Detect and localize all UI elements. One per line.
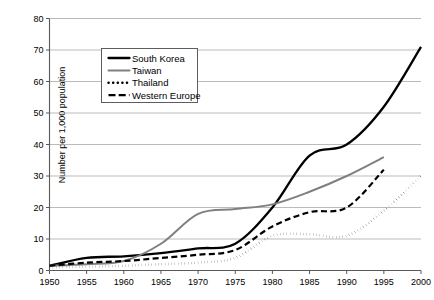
x-tick-label: 1960 — [114, 277, 134, 287]
x-tick-label: 2000 — [411, 277, 431, 287]
legend-label-south-korea: South Korea — [132, 53, 186, 64]
legend: South KoreaTaiwanThailandWestern Europe — [102, 49, 201, 103]
y-tick-label: 70 — [33, 45, 43, 55]
y-tick-label: 80 — [33, 14, 43, 24]
legend-label-western-europe: Western Europe — [132, 90, 200, 101]
y-tick-label: 10 — [33, 234, 43, 244]
x-tick-label: 1985 — [300, 277, 320, 287]
legend-label-taiwan: Taiwan — [132, 65, 162, 76]
y-axis — [46, 19, 50, 271]
series-line-western-europe — [50, 170, 384, 266]
x-tick-label: 1950 — [39, 277, 59, 287]
x-tick-label: 1980 — [262, 277, 282, 287]
chart-container: Number per 1,000 population 010203040506… — [0, 0, 434, 300]
y-tick-label: 30 — [33, 171, 43, 181]
y-tick-label: 60 — [33, 77, 43, 87]
x-tick-label: 1990 — [337, 277, 357, 287]
y-tick-label: 20 — [33, 203, 43, 213]
x-tick-label: 1965 — [151, 277, 171, 287]
x-tick-label: 1975 — [225, 277, 245, 287]
legend-label-thailand: Thailand — [132, 77, 168, 88]
x-axis — [50, 271, 422, 275]
x-tick-label: 1995 — [374, 277, 394, 287]
line-chart-plot: 01020304050607080 1950195519601965197019… — [0, 0, 434, 300]
y-tick-labels: 01020304050607080 — [33, 14, 43, 276]
x-tick-labels: 1950195519601965197019751980198519901995… — [39, 277, 431, 287]
x-tick-label: 1970 — [188, 277, 208, 287]
y-tick-label: 0 — [38, 266, 43, 276]
y-tick-label: 50 — [33, 108, 43, 118]
y-tick-label: 40 — [33, 140, 43, 150]
x-tick-label: 1955 — [77, 277, 97, 287]
